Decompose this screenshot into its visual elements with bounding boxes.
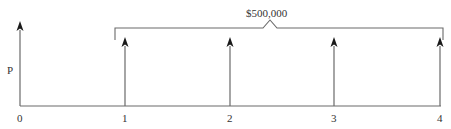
time-label-0: 0 (17, 113, 23, 124)
bracket-amount-label: $500,000 (246, 8, 287, 19)
arrowhead-icon (331, 37, 338, 47)
payment-arrow-2 (227, 37, 234, 106)
time-label-1: 1 (122, 113, 128, 124)
payment-bracket (115, 20, 443, 40)
present-value-arrow (17, 21, 24, 106)
arrowhead-icon (122, 37, 129, 47)
arrowhead-icon (227, 37, 234, 47)
cash-flow-svg (0, 0, 451, 129)
payment-arrow-1 (122, 37, 129, 106)
time-label-2: 2 (227, 113, 233, 124)
payment-arrow-4 (437, 37, 444, 106)
time-label-4: 4 (437, 113, 443, 124)
present-value-label: P (7, 65, 13, 76)
time-label-3: 3 (331, 113, 337, 124)
cash-flow-diagram: $500,000 P 0 1 2 3 4 (0, 0, 451, 129)
arrowhead-icon (17, 21, 24, 31)
payment-arrow-3 (331, 37, 338, 106)
